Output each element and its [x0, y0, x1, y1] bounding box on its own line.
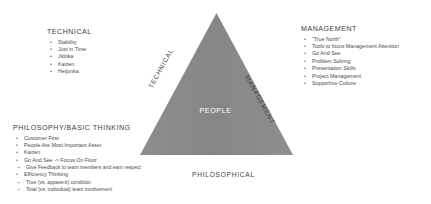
bullet-item: •Tools to focus Management Attention — [301, 43, 399, 50]
bullet-label: Go And See -> Focus On Floor — [24, 157, 97, 163]
bullet-label: Stability — [58, 39, 77, 45]
bullet-dot-icon: • — [304, 65, 306, 72]
bullet-item: •Just in Time — [47, 46, 92, 53]
bullet-label: Tools to focus Management Attention — [312, 43, 399, 49]
bullet-label: Kaizen — [58, 61, 74, 67]
bullet-item: •Presentation Skills — [301, 65, 399, 72]
bullet-dot-icon: • — [304, 73, 306, 80]
bullet-dot-icon: • — [50, 46, 52, 53]
bullet-item: •Kaizen — [13, 149, 141, 156]
sub-bullet-list: ▪Give Feedback to team members and earn … — [13, 164, 141, 171]
bullet-item: •Project Management — [301, 73, 399, 80]
bullet-item: •“True North” — [301, 36, 399, 43]
triangle-edge-label-management: MANAGEMENT — [244, 74, 277, 125]
bullet-list-technical: •Stability•Just in Time•Jidoka•Kaizen•He… — [47, 39, 92, 76]
sub-bullet-label: Give Feedback to team members and earn r… — [26, 164, 141, 170]
bullet-item: •People Are Most Important Asset — [13, 142, 141, 149]
bullet-dot-icon: • — [16, 149, 18, 156]
bullet-label: Heijunka — [58, 68, 79, 74]
sub-bullet-dot-icon: ▪ — [18, 164, 20, 171]
block-heading-technical: TECHNICAL — [47, 28, 92, 36]
sub-bullet-label: Total (vs. individual) team involvement — [26, 186, 112, 192]
block-heading-management: MANAGEMENT — [301, 25, 399, 33]
bullet-label: Project Management — [312, 73, 361, 79]
bullet-item: •Problem Solving — [301, 58, 399, 65]
block-heading-philosophy: PHILOSOPHY/BASIC THINKING — [13, 124, 141, 132]
bullet-label: Customer First — [24, 135, 59, 141]
bullet-dot-icon: • — [50, 68, 52, 75]
triangle-edge-label-technical: TECHNICAL — [147, 47, 175, 89]
triangle-center-label: PEOPLE — [0, 106, 431, 115]
sub-bullet-list: ▪True (vs. apparent) condition▪Total (vs… — [13, 179, 141, 194]
bullet-label: Just in Time — [58, 46, 86, 52]
bullet-dot-icon: • — [50, 39, 52, 46]
bullet-dot-icon: • — [304, 58, 306, 65]
bullet-label: Supportive Culture — [312, 80, 356, 86]
sub-bullet-dot-icon: ▪ — [18, 179, 20, 186]
bullet-item: •Kaizen — [47, 61, 92, 68]
bullet-dot-icon: • — [50, 61, 52, 68]
bullet-dot-icon: • — [16, 171, 18, 178]
bullet-dot-icon: • — [304, 80, 306, 87]
bullet-label: People Are Most Important Asset — [24, 142, 101, 148]
bullet-label: Go And See — [312, 50, 341, 56]
bullet-dot-icon: • — [304, 43, 306, 50]
bullet-item: •Go And See -> Focus On Floor — [13, 157, 141, 164]
bullet-dot-icon: • — [50, 53, 52, 60]
sub-bullet-item: ▪Give Feedback to team members and earn … — [13, 164, 141, 171]
bullet-label: Kaizen — [24, 149, 40, 155]
text-block-technical: TECHNICAL •Stability•Just in Time•Jidoka… — [47, 28, 92, 76]
bullet-label: Presentation Skills — [312, 65, 356, 71]
bullet-item: •Go And See — [301, 50, 399, 57]
bullet-item: •Stability — [47, 39, 92, 46]
text-block-management: MANAGEMENT •“True North”•Tools to focus … — [301, 25, 399, 87]
sub-bullet-item: ▪True (vs. apparent) condition — [13, 179, 141, 186]
bullet-item: •Customer First — [13, 135, 141, 142]
bullet-dot-icon: • — [16, 142, 18, 149]
sub-bullet-label: True (vs. apparent) condition — [26, 179, 91, 185]
bullet-item: •Heijunka — [47, 68, 92, 75]
bullet-item: •Efficiency Thinking — [13, 171, 141, 178]
bullet-item: •Jidoka — [47, 53, 92, 60]
bullet-dot-icon: • — [304, 50, 306, 57]
sub-bullet-dot-icon: ▪ — [18, 186, 20, 193]
bullet-dot-icon: • — [304, 36, 306, 43]
sub-bullet-item: ▪Total (vs. individual) team involvement — [13, 186, 141, 193]
bullet-label: Problem Solving — [312, 58, 351, 64]
bullet-list-philosophy: •Customer First•People Are Most Importan… — [13, 135, 141, 194]
slide-canvas: PEOPLE TECHNICAL MANAGEMENT PHILOSOPHICA… — [0, 0, 431, 204]
bullet-label: Efficiency Thinking — [24, 171, 68, 177]
bullet-list-management: •“True North”•Tools to focus Management … — [301, 36, 399, 88]
bullet-label: Jidoka — [58, 53, 73, 59]
bullet-item: •Supportive Culture — [301, 80, 399, 87]
text-block-philosophy: PHILOSOPHY/BASIC THINKING •Customer Firs… — [13, 124, 141, 193]
bullet-dot-icon: • — [16, 157, 18, 164]
triangle-edge-label-philosophical: PHILOSOPHICAL — [192, 171, 255, 178]
bullet-dot-icon: • — [16, 135, 18, 142]
triangle-shape — [140, 13, 293, 155]
bullet-label: “True North” — [312, 36, 341, 42]
